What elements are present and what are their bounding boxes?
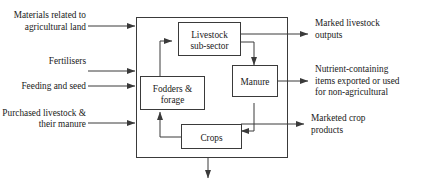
flow-livestock-to-manure (240, 42, 254, 65)
output-label-nutrient-items-line2: items exported or used (315, 76, 400, 86)
output-label-livestock-outputs-line2: outputs (315, 30, 343, 40)
flow-manure-to-crops (241, 103, 254, 131)
output-label-crop-products-line1: Marketed crop (311, 113, 366, 123)
input-label-feeding-seed: Feeding and seed (21, 81, 86, 91)
output-label-livestock-outputs: Marked livestock outputs (315, 18, 380, 40)
node-label-livestock-line1: Livestock (191, 30, 228, 40)
input-label-materials-line1: Materials related to (14, 10, 87, 20)
input-label-purchased-livestock: Purchased livestock & their manure (2, 108, 86, 130)
nutrient-flow-diagram: Livestock sub-sector Fodders & forage Ma… (0, 0, 422, 184)
input-label-fertilisers-line1: Fertilisers (49, 56, 87, 66)
output-label-nutrient-items-line1: Nutrient-containing (315, 64, 389, 74)
output-label-livestock-outputs-line1: Marked livestock (315, 18, 380, 28)
node-fodders-forage: Fodders & forage (141, 77, 205, 110)
output-label-nutrient-items: Nutrient-containing items exported or us… (315, 64, 400, 97)
node-label-manure-line1: Manure (241, 77, 270, 87)
node-label-fodders-line2: forage (161, 95, 185, 105)
input-label-fertilisers: Fertilisers (49, 56, 87, 66)
node-label-fodders-line1: Fodders & (153, 84, 193, 94)
node-livestock-sub-sector: Livestock sub-sector (179, 23, 241, 56)
node-label-crops-line1: Crops (200, 133, 223, 143)
output-label-crop-products-line2: products (311, 125, 343, 135)
output-label-crop-products: Marketed crop products (311, 113, 366, 135)
input-label-feeding-seed-line1: Feeding and seed (21, 81, 86, 91)
node-manure: Manure (233, 66, 278, 97)
node-crops: Crops (182, 125, 242, 149)
input-label-materials-line2: agricultural land (25, 22, 87, 32)
flow-fodders-to-livestock (160, 41, 172, 76)
input-label-materials: Materials related to agricultural land (14, 10, 87, 32)
input-label-purchased-livestock-line1: Purchased livestock & (2, 108, 86, 118)
node-label-livestock-line2: sub-sector (190, 41, 229, 51)
output-label-nutrient-items-line3: for non-agricultural (315, 87, 388, 97)
input-label-purchased-livestock-line2: their manure (39, 119, 86, 129)
